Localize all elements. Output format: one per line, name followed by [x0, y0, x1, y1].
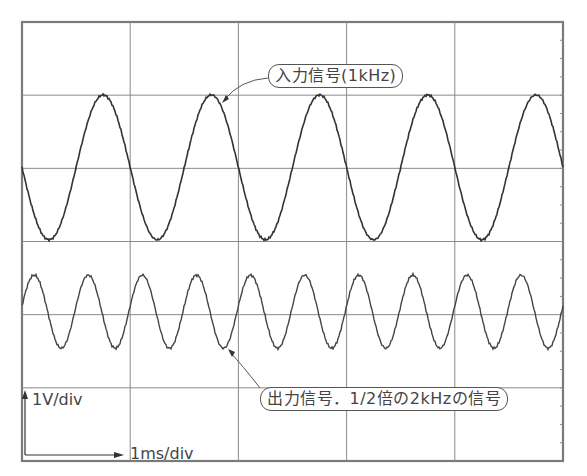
- output-signal-callout: 出力信号．1/2倍の2kHzの信号: [260, 387, 508, 411]
- input-signal-trace: [22, 94, 563, 241]
- input-signal-callout: 入力信号(1kHz): [268, 64, 403, 88]
- output-signal-trace: [22, 274, 563, 350]
- output-callout-leader: [230, 352, 260, 388]
- volts-per-div-label: 1V/div: [32, 391, 83, 409]
- time-per-div-label: 1ms/div: [130, 445, 194, 463]
- input-callout-leader: [224, 78, 268, 100]
- time-axis-arrow-icon: [114, 452, 124, 458]
